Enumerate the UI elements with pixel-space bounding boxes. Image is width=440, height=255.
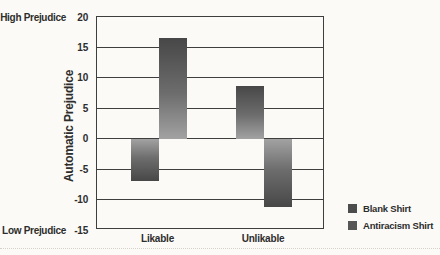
y-tick-label-10: 10 — [54, 72, 88, 83]
legend-item-antiracism-shirt: Antiracism Shirt — [348, 220, 433, 231]
bar-likable-blank-shirt — [131, 139, 159, 182]
y-tick-label-5: 5 — [54, 103, 88, 114]
gridline-y-5 — [97, 108, 323, 109]
gridline-y-10 — [97, 77, 323, 78]
bar-unlikable-antiracism-shirt — [264, 139, 292, 208]
legend-swatch-icon — [348, 221, 357, 230]
legend-label: Blank Shirt — [363, 203, 411, 214]
y-tick-label--10: -10 — [54, 194, 88, 205]
legend: Blank ShirtAntiracism Shirt — [348, 203, 433, 237]
legend-item-blank-shirt: Blank Shirt — [348, 203, 433, 214]
legend-label: Antiracism Shirt — [363, 220, 433, 231]
y-tick-label-0: 0 — [54, 133, 88, 144]
gridline-y-15 — [97, 47, 323, 48]
x-category-label-likable: Likable — [141, 233, 174, 245]
y-tick-label--15: -15 — [54, 225, 88, 236]
page-rule-decoration — [0, 248, 440, 249]
legend-swatch-icon — [348, 204, 357, 213]
y-tick-label-20: 20 — [54, 12, 88, 23]
bar-likable-antiracism-shirt — [159, 38, 187, 138]
y-tick-label-15: 15 — [54, 42, 88, 53]
plot-area — [96, 16, 324, 229]
y-tick-label--5: -5 — [54, 164, 88, 175]
x-category-label-unlikable: Unlikable — [242, 233, 285, 245]
bar-unlikable-blank-shirt — [236, 86, 264, 139]
bar-chart-figure: High Prejudice Low Prejudice Automatic P… — [0, 0, 440, 255]
